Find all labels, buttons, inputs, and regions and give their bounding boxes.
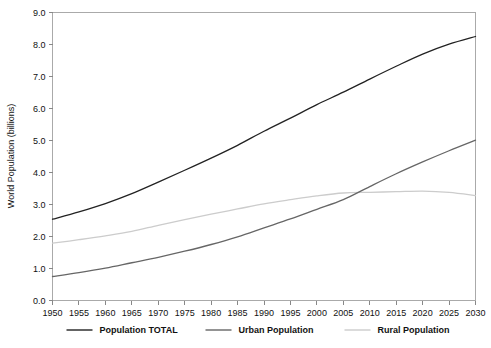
x-axis-tick-label: 1970 [148,308,168,318]
y-axis-tick-label: 6.0 [33,104,46,114]
y-axis-tick-label: 4.0 [33,168,46,178]
series-line-urban-population [53,140,476,276]
legend-item: Population TOTAL [67,325,179,335]
x-axis-tick-label: 2000 [307,308,327,318]
y-axis-tick-label: 5.0 [33,136,46,146]
series-line-rural-population [53,191,476,243]
y-axis-tick-label: 3.0 [33,200,46,210]
x-axis-tick-label: 1950 [42,308,62,318]
y-axis-title: World Population (billions) [6,104,16,208]
legend-item: Urban Population [206,325,314,335]
legend-label: Population TOTAL [100,325,179,335]
y-axis-tick-label: 2.0 [33,232,46,242]
plot-area-border [53,13,476,301]
chart-legend: Population TOTALUrban PopulationRural Po… [67,325,450,335]
x-axis-tick-label: 2030 [465,308,485,318]
x-axis: 1950195519601965197019751980198519901995… [42,301,485,318]
x-axis-tick-label: 1980 [201,308,221,318]
x-axis-tick-label: 1995 [280,308,300,318]
y-axis-tick-label: 1.0 [33,264,46,274]
x-axis-tick-label: 2020 [413,308,433,318]
chart-canvas: 0.01.02.03.04.05.06.07.08.09.0 195019551… [0,0,491,348]
y-axis: 0.01.02.03.04.05.06.07.08.09.0 [33,8,53,306]
x-axis-tick-label: 1975 [175,308,195,318]
y-axis-tick-label: 9.0 [33,8,46,18]
x-axis-tick-label: 2010 [360,308,380,318]
y-axis-tick-label: 7.0 [33,72,46,82]
x-axis-tick-label: 2025 [439,308,459,318]
x-axis-tick-label: 1965 [122,308,142,318]
x-axis-tick-label: 2015 [386,308,406,318]
x-axis-tick-label: 1955 [69,308,89,318]
series-lines [53,37,476,277]
x-axis-tick-label: 2005 [333,308,353,318]
x-axis-tick-label: 1985 [228,308,248,318]
x-axis-tick-label: 1990 [254,308,274,318]
y-axis-tick-label: 8.0 [33,40,46,50]
y-axis-tick-label: 0.0 [33,296,46,306]
population-line-chart: 0.01.02.03.04.05.06.07.08.09.0 195019551… [0,0,491,348]
legend-item: Rural Population [345,325,450,335]
legend-label: Urban Population [239,325,314,335]
x-axis-tick-label: 1960 [95,308,115,318]
legend-label: Rural Population [378,325,450,335]
